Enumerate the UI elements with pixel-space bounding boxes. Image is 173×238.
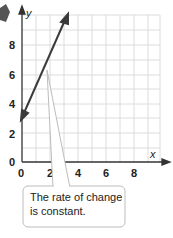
- svg-text:2: 2: [9, 128, 15, 140]
- y-axis-label: y: [25, 7, 33, 19]
- grid: [22, 15, 160, 162]
- badge-hexagon-icon: [0, 4, 10, 22]
- svg-text:0: 0: [9, 156, 15, 168]
- y-tick-labels: 8 6 4 2 0: [9, 39, 16, 168]
- svg-text:6: 6: [103, 167, 109, 179]
- svg-text:4: 4: [75, 167, 82, 179]
- x-tick-labels: 0 2 4 6 8: [18, 167, 137, 179]
- svg-text:6: 6: [9, 69, 15, 81]
- callout-text: The rate of change is constant.: [30, 190, 125, 218]
- svg-text:0: 0: [18, 167, 24, 179]
- x-axis-label: x: [149, 148, 156, 160]
- callout-line-1: The rate of change: [30, 190, 125, 204]
- callout-line-2: is constant.: [30, 204, 125, 218]
- svg-text:8: 8: [9, 39, 15, 51]
- svg-text:8: 8: [131, 167, 137, 179]
- svg-text:4: 4: [9, 98, 16, 110]
